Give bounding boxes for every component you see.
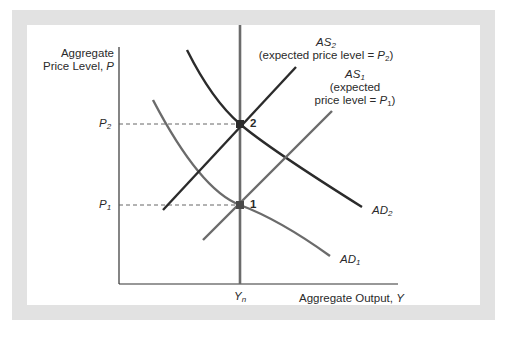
ad1-label: AD1 [340,253,360,266]
point-1-label: 1 [250,198,256,211]
ad2-label: AD2 [372,204,392,217]
as1-label: AS1 (expected price level = P1) [300,68,410,107]
p2-tick-label: P2 [99,117,111,130]
yn-tick-label: Yn [234,290,246,303]
as2-label: AS2 (expected price level = P2) [246,36,406,62]
as2-line [163,67,296,210]
x-axis-label: Aggregate Output, Y [299,292,404,305]
p1-tick-label: P1 [99,198,111,211]
point-2-label: 2 [250,117,256,130]
y-axis-label: Aggregate Price Level, P [30,47,114,73]
equilibrium-point-2 [236,120,244,128]
equilibrium-point-1 [236,201,244,209]
